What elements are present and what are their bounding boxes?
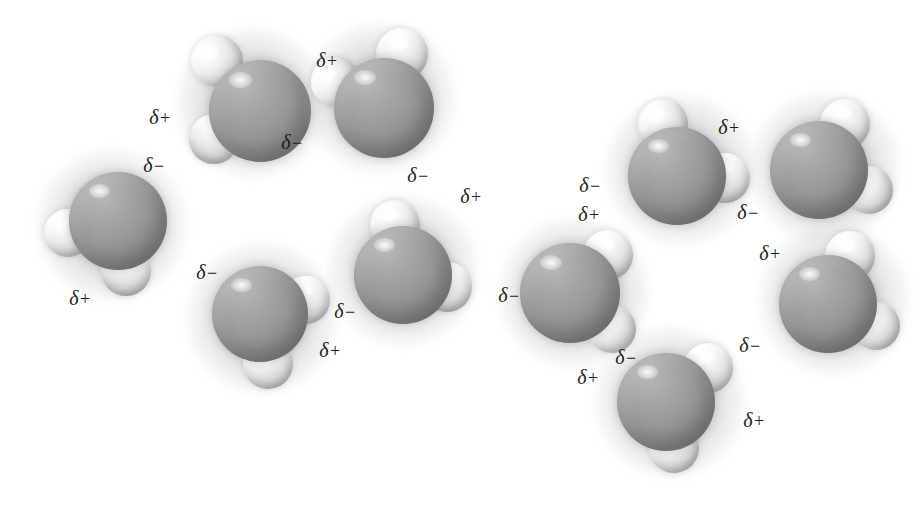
charge-label-4: δ+ (316, 50, 337, 70)
charge-sign-glyph: + (160, 108, 171, 128)
delta-glyph: δ (718, 116, 728, 138)
charge-sign-glyph: − (207, 263, 218, 283)
charge-sign-glyph: + (471, 187, 482, 207)
oxygen-atom (69, 172, 167, 270)
charge-sign-glyph: + (588, 368, 599, 388)
delta-glyph: δ (407, 164, 417, 186)
charge-sign-glyph: + (754, 411, 765, 431)
charge-sign-glyph: + (729, 118, 740, 138)
molecule-body (601, 90, 761, 250)
charge-label-1: δ+ (149, 107, 170, 127)
oxygen-atom (628, 127, 726, 225)
charge-sign-glyph: − (626, 348, 637, 368)
charge-label-5: δ− (407, 165, 428, 185)
charge-sign-glyph: + (327, 51, 338, 71)
charge-sign-glyph: − (292, 133, 303, 153)
delta-glyph: δ (737, 201, 747, 223)
charge-sign-glyph: + (589, 205, 600, 225)
delta-glyph: δ (615, 346, 625, 368)
oxygen-atom (354, 226, 452, 324)
charge-label-12: δ+ (578, 204, 599, 224)
oxygen-atom (212, 266, 308, 362)
charge-label-10: δ+ (460, 186, 481, 206)
oxygen-atom (779, 255, 877, 353)
delta-glyph: δ (739, 334, 749, 356)
charge-sign-glyph: − (590, 176, 601, 196)
charge-label-7: δ− (196, 262, 217, 282)
delta-glyph: δ (759, 242, 769, 264)
charge-label-15: δ− (579, 175, 600, 195)
charge-sign-glyph: − (154, 156, 165, 176)
charge-label-13: δ− (615, 347, 636, 367)
charge-sign-glyph: + (80, 289, 91, 309)
charge-sign-glyph: − (418, 166, 429, 186)
charge-label-8: δ+ (319, 340, 340, 360)
charge-label-2: δ− (281, 132, 302, 152)
molecule-body (300, 18, 460, 178)
delta-glyph: δ (281, 131, 291, 153)
delta-glyph: δ (460, 185, 470, 207)
charge-sign-glyph: + (330, 341, 341, 361)
charge-sign-glyph: − (748, 203, 759, 223)
charge-label-17: δ− (737, 202, 758, 222)
charge-sign-glyph: + (770, 244, 781, 264)
molecule-body (323, 191, 483, 351)
delta-glyph: δ (316, 49, 326, 71)
delta-glyph: δ (196, 261, 206, 283)
charge-label-11: δ− (498, 285, 519, 305)
delta-glyph: δ (319, 339, 329, 361)
molecule-body (590, 322, 750, 482)
delta-glyph: δ (498, 284, 508, 306)
charge-label-6: δ+ (69, 288, 90, 308)
oxygen-atom (770, 121, 868, 219)
charge-sign-glyph: − (750, 336, 761, 356)
charge-label-20: δ+ (743, 410, 764, 430)
molecule-body (32, 145, 192, 305)
charge-label-9: δ− (334, 301, 355, 321)
delta-glyph: δ (579, 174, 589, 196)
delta-glyph: δ (334, 300, 344, 322)
delta-glyph: δ (143, 154, 153, 176)
oxygen-atom (334, 58, 434, 158)
delta-glyph: δ (577, 366, 587, 388)
delta-glyph: δ (149, 106, 159, 128)
charge-sign-glyph: − (345, 302, 356, 322)
charge-label-14: δ+ (577, 367, 598, 387)
charge-label-3: δ− (143, 155, 164, 175)
charge-sign-glyph: − (509, 286, 520, 306)
delta-glyph: δ (69, 287, 79, 309)
charge-label-18: δ+ (759, 243, 780, 263)
charge-label-19: δ− (739, 335, 760, 355)
charge-label-16: δ+ (718, 117, 739, 137)
delta-glyph: δ (578, 203, 588, 225)
delta-glyph: δ (743, 409, 753, 431)
molecule-diagram-canvas: δ+δ−δ−δ+δ−δ+δ−δ+δ−δ+δ−δ+δ−δ+δ−δ+δ−δ+δ−δ+ (0, 0, 921, 505)
